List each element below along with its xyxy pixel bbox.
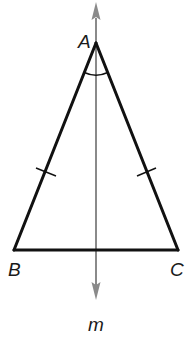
- line-m-top-arrow-icon: [92, 2, 101, 20]
- side-ab: [14, 43, 96, 250]
- vertex-label-b: B: [8, 259, 21, 280]
- vertex-label-c: C: [170, 259, 184, 280]
- vertex-label-a: A: [77, 31, 91, 52]
- line-label-m: m: [88, 314, 104, 335]
- side-ac: [96, 43, 178, 250]
- diagram-canvas: A B C m: [0, 0, 193, 347]
